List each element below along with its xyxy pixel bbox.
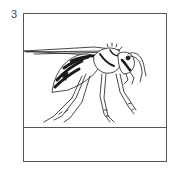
illustration-area [24,14,166,127]
item-number: 3 [11,9,17,20]
picture-card [23,13,167,162]
wasp-icon [24,14,166,127]
answer-box[interactable] [24,128,166,161]
